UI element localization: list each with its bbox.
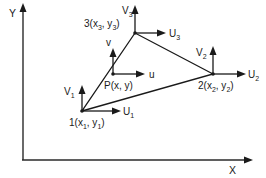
node-2-v-arrow-icon [210,46,217,55]
point-p-v-label: v [106,37,111,48]
node-1-v-arrow-icon [79,85,86,94]
y-axis-label: Y [9,7,16,19]
node-1-v-label: V1 [64,86,75,99]
point-p-u-arrow-icon [136,71,145,78]
point-p-v-arrow-icon [110,48,117,57]
node-3-u-label: U3 [169,28,180,41]
triangle-edges [82,33,213,111]
triangle-element-diagram: Y X V1 U1 1(x1, y1) V2 U2 [0,0,266,178]
point-p-u-label: u [149,69,155,80]
node-1: V1 U1 1(x1, y1) [64,85,134,130]
node-3: V3 U3 3(x3, y3) [84,5,180,41]
node-2-coord-label: 2(x2, y2) [198,80,234,93]
triangle-element [82,33,213,111]
x-axis-arrow-icon [244,157,253,164]
node-1-coord-label: 1(x1, y1) [69,117,105,130]
node-3-u-arrow-icon [157,30,166,37]
interior-point-p: v u P(x, y) [104,37,155,91]
node-1-u-arrow-icon [112,108,121,115]
node-3-coord-label: 3(x3, y3) [84,18,120,31]
node-2-v-label: V2 [196,47,207,60]
y-axis-arrow-icon [20,3,27,12]
node-2-u-label: U2 [248,69,259,82]
node-3-v-label: V3 [122,5,133,18]
node-1-u-label: U1 [123,106,134,119]
point-p-coord-label: P(x, y) [104,80,133,91]
x-axis-label: X [229,164,236,176]
node-2: V2 U2 2(x2, y2) [196,46,259,93]
node-2-u-arrow-icon [237,71,246,78]
